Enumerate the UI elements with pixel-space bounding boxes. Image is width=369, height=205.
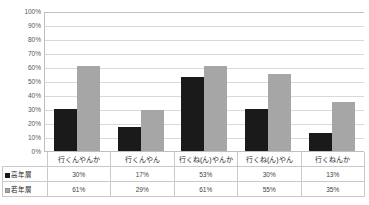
category-header-cell: 行くんやん bbox=[111, 152, 175, 167]
value-cell: 61% bbox=[174, 182, 238, 197]
y-axis-tick-label: 10% bbox=[28, 135, 41, 142]
value-cell: 17% bbox=[111, 167, 175, 182]
legend-label: 高年層 bbox=[11, 171, 32, 178]
y-axis-tick-label: 70% bbox=[28, 51, 41, 58]
table-row: 高年層30%17%53%30%13% bbox=[3, 167, 365, 182]
y-axis-tick-label: 80% bbox=[28, 37, 41, 44]
legend-item-0[interactable]: 高年層 bbox=[3, 167, 48, 182]
bar-group bbox=[173, 12, 237, 151]
category-header-cell: 行くねんか bbox=[301, 152, 365, 167]
bar-1 bbox=[332, 102, 355, 151]
table-row-categories: 行くんやんか行くんやん行くね(ん)やんか行くね(ん)やん行くねんか bbox=[3, 152, 365, 167]
plot-region: 100%90%80%70%60%50%40%30%20%10%0% bbox=[0, 9, 369, 155]
y-axis: 100%90%80%70%60%50%40%30%20%10%0% bbox=[0, 9, 44, 155]
bar-group bbox=[236, 12, 300, 151]
value-cell: 13% bbox=[301, 167, 365, 182]
y-axis-tick-label: 60% bbox=[28, 65, 41, 72]
y-axis-tick-label: 40% bbox=[28, 93, 41, 100]
value-cell: 30% bbox=[47, 167, 111, 182]
table-row: 若年層61%29%61%55%35% bbox=[3, 182, 365, 197]
legend-label: 若年層 bbox=[11, 186, 32, 193]
bar-0 bbox=[54, 109, 77, 151]
y-axis-tick-label: 20% bbox=[28, 121, 41, 128]
legend-swatch-icon bbox=[5, 173, 10, 178]
bar-group bbox=[300, 12, 364, 151]
category-header-cell: 行くね(ん)やんか bbox=[174, 152, 238, 167]
bars-layer bbox=[45, 12, 364, 151]
bar-0 bbox=[309, 133, 332, 151]
value-cell: 35% bbox=[301, 182, 365, 197]
value-cell: 53% bbox=[174, 167, 238, 182]
legend-item-1[interactable]: 若年層 bbox=[3, 182, 48, 197]
bar-1 bbox=[204, 66, 227, 151]
bar-group bbox=[109, 12, 173, 151]
bar-0 bbox=[118, 127, 141, 151]
bar-1 bbox=[268, 74, 291, 151]
value-cell: 29% bbox=[111, 182, 175, 197]
category-header-cell: 行くんやんか bbox=[47, 152, 111, 167]
data-table: 行くんやんか行くんやん行くね(ん)やんか行くね(ん)やん行くねんか高年層30%1… bbox=[2, 152, 365, 197]
value-cell: 30% bbox=[238, 167, 302, 182]
category-header-cell: 行くね(ん)やん bbox=[238, 152, 302, 167]
bar-0 bbox=[245, 109, 268, 151]
bar-0 bbox=[181, 77, 204, 151]
y-axis-tick-label: 90% bbox=[28, 23, 41, 30]
chart-container: 100%90%80%70%60%50%40%30%20%10%0% 行くんやんか… bbox=[0, 0, 369, 205]
y-axis-tick-label: 100% bbox=[24, 9, 41, 16]
bar-1 bbox=[77, 66, 100, 151]
table-corner-cell bbox=[3, 152, 48, 167]
value-cell: 61% bbox=[47, 182, 111, 197]
bar-1 bbox=[141, 110, 164, 151]
plot-area bbox=[44, 12, 364, 152]
y-axis-tick-label: 30% bbox=[28, 107, 41, 114]
y-axis-tick-label: 50% bbox=[28, 79, 41, 86]
bar-group bbox=[45, 12, 109, 151]
legend-swatch-icon bbox=[5, 188, 10, 193]
chart-title bbox=[0, 0, 369, 1]
value-cell: 55% bbox=[238, 182, 302, 197]
